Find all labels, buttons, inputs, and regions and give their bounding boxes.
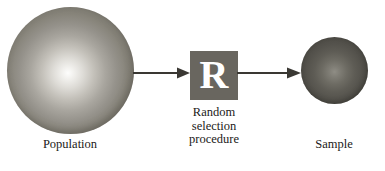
cropped-caption [0, 166, 385, 171]
sample-label: Sample [294, 138, 374, 152]
arrow-population-to-procedure [133, 64, 190, 82]
random-letter: R [200, 55, 229, 95]
arrow-procedure-to-sample [237, 64, 301, 82]
procedure-label: Random selection procedure [184, 106, 244, 147]
figure-container: R Population Random selection procedure … [0, 0, 385, 171]
population-sphere [7, 7, 134, 134]
random-selection-box: R [190, 51, 238, 100]
population-label: Population [10, 138, 130, 152]
sample-sphere [301, 37, 368, 104]
